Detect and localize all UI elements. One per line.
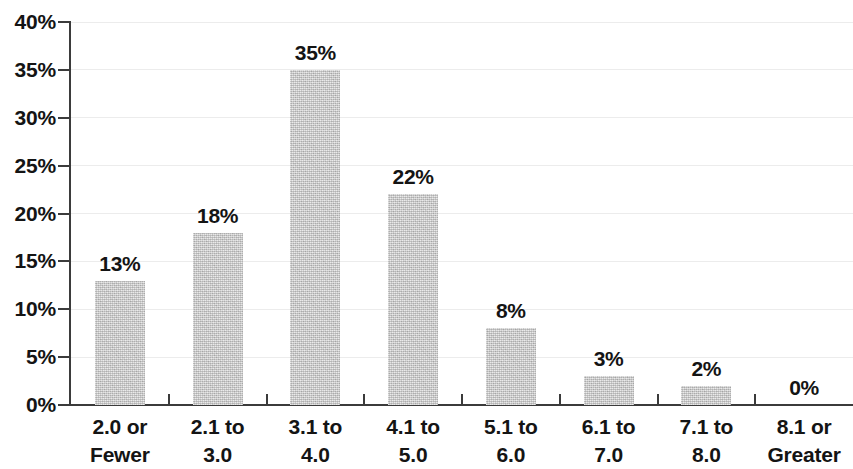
- bar-value-label: 35%: [275, 42, 355, 63]
- x-axis-tick: [559, 394, 561, 405]
- gridline: [71, 165, 853, 166]
- gridline: [71, 117, 853, 118]
- x-axis-category-label: 7.1 to8.0: [658, 413, 756, 469]
- y-axis-tick-label: 0%: [0, 394, 56, 415]
- y-axis-tick-label: 35%: [0, 59, 56, 80]
- y-axis-tick: [58, 213, 71, 215]
- bar: [584, 376, 634, 405]
- x-axis-tick: [266, 394, 268, 405]
- gridline: [71, 22, 853, 23]
- y-axis-tick: [58, 21, 71, 23]
- bar: [681, 386, 731, 405]
- bar-value-label: 2%: [666, 358, 746, 379]
- x-axis-category-label: 8.1 orGreater: [755, 413, 853, 469]
- x-axis-category-label: 6.1 to7.0: [560, 413, 658, 469]
- y-axis-tick-label: 20%: [0, 203, 56, 224]
- y-axis-tick: [58, 165, 71, 167]
- bar-value-label: 0%: [764, 377, 844, 398]
- y-axis-tick-label: 10%: [0, 298, 56, 319]
- bar-value-label: 13%: [80, 253, 160, 274]
- y-axis-tick: [58, 356, 71, 358]
- y-axis-tick: [58, 117, 71, 119]
- gridline: [71, 261, 853, 262]
- x-axis-category-label: 2.1 to3.0: [169, 413, 267, 469]
- x-axis-category-label: 4.1 to5.0: [364, 413, 462, 469]
- y-axis-tick-label: 25%: [0, 155, 56, 176]
- x-axis-category-label: 5.1 to6.0: [462, 413, 560, 469]
- bar-chart-figure: 0%5%10%15%20%25%30%35%40% 2.0 orFewer2.1…: [0, 0, 853, 469]
- bar-value-label: 3%: [569, 348, 649, 369]
- x-axis-tick: [168, 394, 170, 405]
- y-axis-tick-labels: 0%5%10%15%20%25%30%35%40%: [0, 0, 56, 469]
- x-axis-category-label: 2.0 orFewer: [71, 413, 169, 469]
- bar-value-label: 18%: [178, 205, 258, 226]
- bar: [290, 70, 340, 405]
- gridline: [71, 69, 853, 70]
- x-axis-tick: [461, 394, 463, 405]
- x-axis-tick: [363, 394, 365, 405]
- y-axis-tick: [58, 308, 71, 310]
- bar: [486, 328, 536, 405]
- y-axis-tick-label: 40%: [0, 11, 56, 32]
- y-axis-tick-label: 30%: [0, 107, 56, 128]
- bar: [193, 233, 243, 405]
- x-axis-tick: [657, 394, 659, 405]
- bar: [388, 194, 438, 405]
- x-axis-tick: [754, 394, 756, 405]
- y-axis-tick-label: 15%: [0, 250, 56, 271]
- bar-value-label: 8%: [471, 300, 551, 321]
- bar-value-label: 22%: [373, 166, 453, 187]
- gridline: [71, 309, 853, 310]
- bar: [95, 281, 145, 405]
- y-axis-tick: [58, 69, 71, 71]
- y-axis-tick-label: 5%: [0, 346, 56, 367]
- x-axis-category-label: 3.1 to4.0: [267, 413, 365, 469]
- y-axis-tick: [58, 260, 71, 262]
